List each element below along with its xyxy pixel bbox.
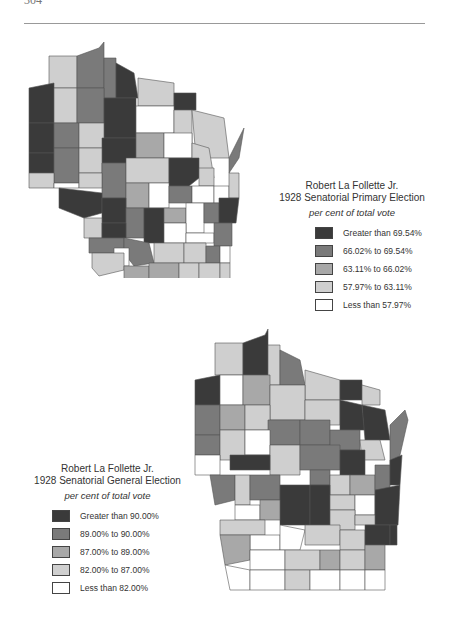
primary-election-map <box>24 38 264 278</box>
legend-item: 82.00% to 87.00% <box>52 561 185 579</box>
legend-item: 87.00% to 89.00% <box>52 543 185 561</box>
legend-item: 89.00% to 90.00% <box>52 525 185 543</box>
legend-swatch <box>315 263 333 275</box>
primary-legend: Robert La Follette Jr. 1928 Senatorial P… <box>277 180 427 314</box>
legend-title: Robert La Follette Jr. <box>277 180 427 192</box>
page-number: 304 <box>24 0 42 8</box>
legend-swatch <box>52 546 70 558</box>
legend-swatch <box>52 510 70 522</box>
legend-item: 63.11% to 66.02% <box>315 260 427 278</box>
legend-caption: per cent of total vote <box>277 207 427 218</box>
legend-item: Less than 82.00% <box>52 579 185 597</box>
legend-subtitle: 1928 Senatorial General Election <box>30 475 185 487</box>
legend-swatch <box>52 582 70 594</box>
legend-item: Greater than 69.54% <box>315 224 427 242</box>
legend-swatch <box>52 564 70 576</box>
legend-swatch <box>52 528 70 540</box>
legend-title: Robert La Follette Jr. <box>30 463 185 475</box>
legend-swatch <box>315 281 333 293</box>
general-legend: Robert La Follette Jr. 1928 Senatorial G… <box>30 463 185 597</box>
legend-swatch <box>315 245 333 257</box>
legend-subtitle: 1928 Senatorial Primary Election <box>277 192 427 204</box>
header-rule <box>24 23 425 24</box>
legend-item: 57.97% to 63.11% <box>315 278 427 296</box>
legend-swatch <box>315 227 333 239</box>
legend-item: 66.02% to 69.54% <box>315 242 427 260</box>
legend-caption: per cent of total vote <box>30 490 185 501</box>
general-election-map <box>190 325 430 595</box>
legend-swatch <box>315 299 333 311</box>
legend-item: Less than 57.97% <box>315 296 427 314</box>
legend-item: Greater than 90.00% <box>52 507 185 525</box>
